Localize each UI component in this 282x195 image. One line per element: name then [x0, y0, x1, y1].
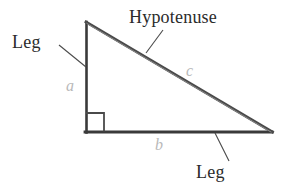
label-side-a: a: [66, 78, 74, 94]
label-leg-bottom: Leg: [196, 163, 225, 181]
leg-top-leader-line: [59, 45, 86, 67]
hypotenuse-line: [86, 22, 273, 132]
leg-bottom-leader-line: [215, 133, 229, 161]
hypotenuse-highlight: [87, 24, 271, 133]
triangle-drawing: [0, 0, 282, 195]
label-side-c: c: [186, 63, 193, 79]
hypotenuse-leader-line: [146, 30, 163, 53]
label-hypotenuse: Hypotenuse: [129, 8, 217, 26]
label-leg-top: Leg: [12, 33, 41, 51]
right-triangle-figure: Leg Hypotenuse Leg a b c: [0, 0, 282, 195]
label-side-b: b: [155, 137, 163, 153]
right-angle-marker: [86, 113, 104, 132]
